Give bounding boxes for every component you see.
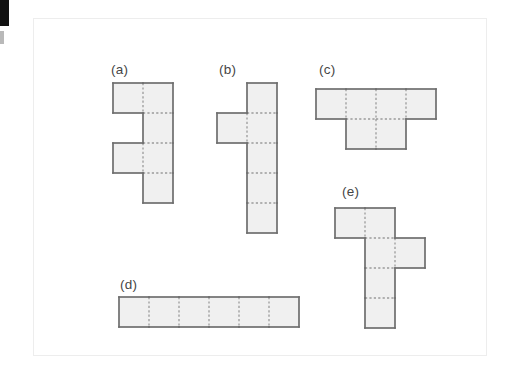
shape-b	[214, 80, 280, 236]
shape-label-c: (c)	[319, 63, 335, 77]
page-edge-mark	[0, 0, 9, 26]
figure-root: (a)(b)(c)(d)(e)	[0, 0, 522, 380]
shape-d	[116, 294, 302, 330]
shape-label-d: (d)	[120, 278, 137, 292]
figure-panel: (a)(b)(c)(d)(e)	[33, 18, 487, 356]
shape-c	[313, 86, 439, 152]
shape-e	[332, 205, 428, 331]
shape-label-a: (a)	[111, 63, 128, 77]
page-edge-mark-secondary	[0, 31, 4, 44]
shape-label-e: (e)	[342, 185, 359, 199]
shape-label-b: (b)	[219, 63, 236, 77]
shape-a	[110, 80, 176, 206]
